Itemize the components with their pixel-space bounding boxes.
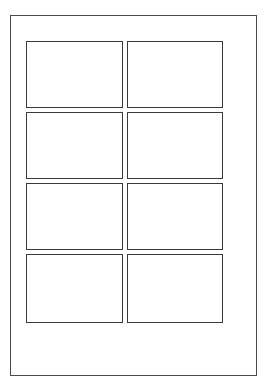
grid-cell-r4-c1 (26, 254, 123, 323)
grid-cell-r1-c2 (127, 41, 223, 108)
grid-cell-r3-c1 (26, 183, 123, 250)
grid-cell-r4-c2 (127, 254, 223, 323)
grid-cell-r2-c2 (127, 112, 223, 179)
grid-cell-r1-c1 (26, 41, 123, 108)
grid-cell-r3-c2 (127, 183, 223, 250)
grid-cell-r2-c1 (26, 112, 123, 179)
